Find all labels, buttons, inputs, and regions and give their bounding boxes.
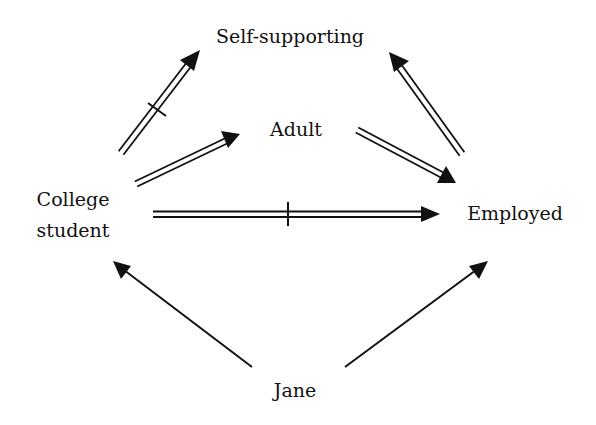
edge-college-to-adult bbox=[135, 131, 240, 187]
edge-adult-to-employed bbox=[356, 128, 456, 184]
arrowhead-icon bbox=[389, 52, 409, 72]
edge-college-to-selfsupporting bbox=[119, 50, 200, 155]
arrowhead-icon bbox=[437, 166, 456, 183]
edge-employed-to-selfsupporting bbox=[389, 52, 464, 156]
node-self-supporting: Self-supporting bbox=[216, 25, 364, 47]
edge-college-to-employed bbox=[153, 202, 440, 226]
arrowhead-icon bbox=[113, 261, 131, 279]
arrowhead-icon bbox=[421, 206, 440, 222]
node-jane: Jane bbox=[272, 379, 316, 401]
edge-jane-to-employed bbox=[345, 261, 488, 367]
node-college-student-line2: student bbox=[37, 219, 110, 241]
node-college-student-line1: College bbox=[37, 188, 110, 210]
edge-jane-to-college bbox=[113, 261, 252, 367]
node-employed: Employed bbox=[467, 202, 563, 224]
node-adult: Adult bbox=[269, 118, 322, 140]
arrowhead-icon bbox=[469, 261, 488, 279]
inheritance-network-diagram: Self-supporting Adult College student Em… bbox=[0, 0, 596, 425]
